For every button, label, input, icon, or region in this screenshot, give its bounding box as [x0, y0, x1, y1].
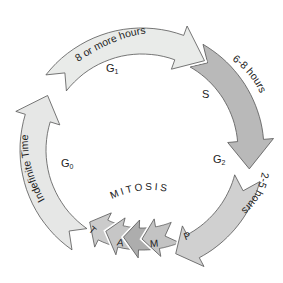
m-phase-label: M: [149, 238, 158, 250]
g0-arrow: [16, 96, 87, 250]
s-phase-label: S: [202, 88, 209, 100]
g0-phase-label: G0: [61, 157, 74, 170]
g1-arrow: [46, 26, 205, 91]
g1-phase-label: G1: [106, 62, 119, 75]
g2-phase-label: G2: [213, 153, 226, 166]
g2-arrow: [176, 175, 260, 267]
cell-cycle-diagram: 8 or more hours 6-8 hours 2-5 hours Inde…: [0, 0, 283, 283]
mitosis-label: MITOSIS: [108, 181, 170, 201]
